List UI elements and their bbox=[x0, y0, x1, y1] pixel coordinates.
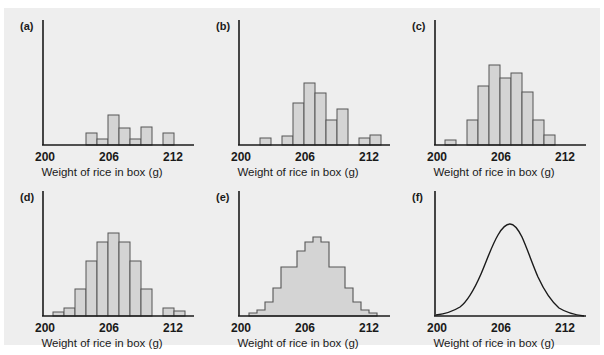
panel-a: (a) 200 206 212 Weight of rice in box (g… bbox=[4, 8, 200, 174]
panel-c-letter: (c) bbox=[412, 20, 425, 32]
panel-e-tick-206: 206 bbox=[288, 321, 322, 335]
panel-f: (f) 200 206 212 Weight of rice in box (g… bbox=[396, 179, 592, 345]
panel-d-bars bbox=[53, 233, 185, 316]
panel-f-tick-212: 212 bbox=[548, 321, 582, 335]
panel-a-tick-212: 212 bbox=[156, 150, 190, 164]
panel-d-tick-212: 212 bbox=[156, 321, 190, 335]
panel-e-letter: (e) bbox=[216, 191, 229, 203]
panel-d-svg bbox=[42, 189, 194, 319]
panel-b-plot bbox=[238, 18, 390, 148]
panel-d-letter: (d) bbox=[20, 191, 34, 203]
panel-c-tick-212: 212 bbox=[548, 150, 582, 164]
panel-c-plot bbox=[434, 18, 586, 148]
panel-d-plot bbox=[42, 189, 194, 319]
panel-b-letter: (b) bbox=[216, 20, 230, 32]
panel-f-tick-200: 200 bbox=[420, 321, 454, 335]
panel-b-tick-200: 200 bbox=[224, 150, 258, 164]
panel-d-axis-caption: Weight of rice in box (g) bbox=[4, 337, 200, 349]
panel-a-tick-206: 206 bbox=[92, 150, 126, 164]
panel-a-bars bbox=[86, 115, 174, 145]
panel-c: (c) 200 206 212 Weight of bbox=[396, 8, 592, 174]
panel-e-svg bbox=[238, 189, 390, 319]
panel-e-axis-caption: Weight of rice in box (g) bbox=[200, 337, 396, 349]
panel-e-tick-200: 200 bbox=[224, 321, 258, 335]
panel-b: (b) 200 206 212 Weight of bbox=[200, 8, 396, 174]
panel-b-bars bbox=[260, 83, 381, 145]
panel-f-svg bbox=[434, 189, 586, 319]
panel-f-plot bbox=[434, 189, 586, 319]
panel-c-svg bbox=[434, 18, 586, 148]
panel-b-axis-caption: Weight of rice in box (g) bbox=[200, 166, 396, 178]
panel-b-svg bbox=[238, 18, 390, 148]
panel-d-tick-200: 200 bbox=[28, 321, 62, 335]
panel-c-bars bbox=[445, 65, 555, 145]
panel-b-tick-206: 206 bbox=[288, 150, 322, 164]
panel-b-tick-212: 212 bbox=[352, 150, 386, 164]
panel-e-staircase bbox=[249, 237, 377, 316]
panel-a-letter: (a) bbox=[20, 20, 33, 32]
panel-e-plot bbox=[238, 189, 390, 319]
panel-f-normal-curve bbox=[436, 224, 584, 316]
panel-f-axis-caption: Weight of rice in box (g) bbox=[396, 337, 592, 349]
panel-f-letter: (f) bbox=[412, 191, 423, 203]
panel-f-tick-206: 206 bbox=[484, 321, 518, 335]
figure-root: (a) 200 206 212 Weight of rice in box (g… bbox=[0, 0, 604, 355]
panel-c-axis-caption: Weight of rice in box (g) bbox=[396, 166, 592, 178]
panel-e: (e) 200 206 212 Weight of rice in box (g… bbox=[200, 179, 396, 345]
panel-e-tick-212: 212 bbox=[352, 321, 386, 335]
panel-a-plot bbox=[42, 18, 194, 148]
panel-c-tick-206: 206 bbox=[484, 150, 518, 164]
panel-d: (d) 200 206 bbox=[4, 179, 200, 345]
panel-c-tick-200: 200 bbox=[420, 150, 454, 164]
panel-a-axis-caption: Weight of rice in box (g) bbox=[4, 166, 200, 178]
panel-d-tick-206: 206 bbox=[92, 321, 126, 335]
panel-a-tick-200: 200 bbox=[28, 150, 62, 164]
panel-a-svg bbox=[42, 18, 194, 148]
